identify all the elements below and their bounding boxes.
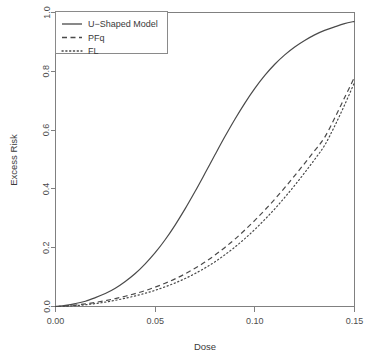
x-axis-title: Dose <box>194 341 216 352</box>
y-tick-label: 0.8 <box>42 65 52 78</box>
x-tick-label: 0.05 <box>146 316 164 326</box>
x-tick-label: 0.10 <box>246 316 264 326</box>
legend-label: FL <box>88 46 99 56</box>
chart-legend: U−Shaped ModelPFqFL <box>56 12 168 57</box>
legend-label: PFq <box>88 33 105 43</box>
legend-box <box>56 12 168 54</box>
y-axis-ticks: 0.00.20.40.60.81.0 <box>42 6 56 313</box>
data-series-group <box>56 21 355 306</box>
x-tick-label: 0.00 <box>47 316 65 326</box>
chart-canvas: 0.00.20.40.60.81.0 0.000.050.100.15 Dose… <box>0 0 368 362</box>
x-tick-label: 0.15 <box>346 316 364 326</box>
y-tick-label: 1.0 <box>42 6 52 19</box>
series-line-u-shaped-model <box>56 21 355 306</box>
chart-figure: 0.00.20.40.60.81.0 0.000.050.100.15 Dose… <box>0 0 368 362</box>
y-tick-label: 0.2 <box>42 241 52 254</box>
series-line-fl <box>56 82 355 306</box>
y-tick-label: 0.0 <box>42 300 52 313</box>
legend-label: U−Shaped Model <box>88 19 158 29</box>
y-tick-label: 0.6 <box>42 124 52 137</box>
series-line-pfq <box>56 77 355 306</box>
y-axis-title: Excess Risk <box>8 134 19 186</box>
x-axis-ticks: 0.000.050.100.15 <box>47 307 364 326</box>
y-tick-label: 0.4 <box>42 183 52 196</box>
